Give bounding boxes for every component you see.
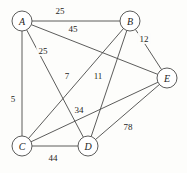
edge-weight-label-a-c: 5 [11,94,16,104]
graph-node-e: E [157,68,177,88]
node-label-b: B [127,16,133,27]
edge-weight-label-a-d: 25 [39,46,49,56]
weighted-graph-figure: ABECD 254525512711344478 [0,0,187,173]
edge-weight-label-b-d: 11 [94,71,103,81]
edge-weight-label-a-b: 25 [56,6,66,16]
edge-weight-label-b-c: 7 [65,71,70,81]
edge-weight-label-c-e: 34 [75,105,85,115]
node-label-d: D [83,141,92,152]
edge-a-e [31,25,157,75]
graph-canvas: ABECD 254525512711344478 [0,0,187,173]
graph-node-d: D [78,136,98,156]
graph-node-c: C [12,136,32,156]
edge-weight-label-c-d: 44 [49,153,59,163]
edge-weight-label-a-e: 45 [69,24,79,34]
edge-weight-label-b-e: 12 [140,34,149,44]
edge-c-e [31,82,158,142]
edge-weight-label-d-e: 78 [124,122,134,132]
graph-node-a: A [12,11,32,31]
graph-node-b: B [120,11,140,31]
node-label-c: C [19,141,26,152]
node-label-e: E [163,73,170,84]
edge-b-d [91,30,127,136]
nodes-layer: ABECD [12,11,177,156]
node-label-a: A [18,16,26,27]
